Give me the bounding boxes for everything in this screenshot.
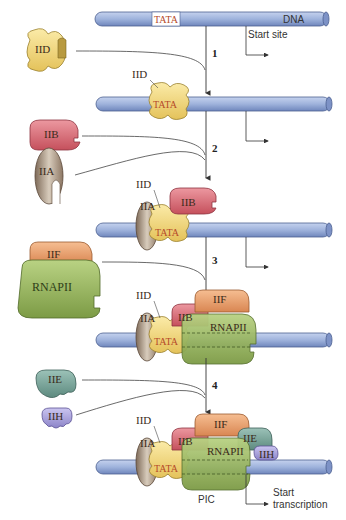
dna-row-4: IIA TATA IIB IIF RNAPII IID [96,289,332,364]
iih-label: IIH [48,410,63,422]
svg-text:RNAPII: RNAPII [207,445,244,457]
dna-label: DNA [283,14,304,25]
free-iie: IIE [36,370,76,398]
svg-text:IIB: IIB [178,435,193,447]
iif-rnapii-path [102,262,205,280]
free-iib: IIB [30,120,80,150]
svg-text:IIF: IIF [214,418,227,430]
svg-text:IID: IID [136,414,151,426]
svg-text:TATA: TATA [154,336,179,347]
dna-row-2: TATA IID [96,68,332,141]
step-3-label: 3 [212,254,218,266]
svg-text:TATA: TATA [155,227,180,238]
free-iih: IIH [42,408,72,428]
step-4-label: 4 [212,379,218,391]
svg-text:TATA: TATA [154,463,179,474]
iib-label: IIB [44,128,59,140]
svg-text:IIE: IIE [243,432,257,444]
free-iid: IID [27,29,66,72]
start-label: Start [273,487,294,498]
svg-text:IIA: IIA [140,200,155,212]
svg-text:IID: IID [136,178,151,190]
iid-label: IID [35,43,50,55]
pic-complex: IIA TATA IIB IIF IIE IIH RNAPII IID PIC … [96,414,332,510]
step-1-label: 1 [212,47,218,59]
svg-text:IID: IID [136,289,151,301]
svg-text:IIH: IIH [259,448,274,460]
svg-text:IIB: IIB [181,196,196,208]
svg-text:RNAPII: RNAPII [210,321,247,333]
iih-path [76,391,205,415]
iie-label: IIE [48,373,62,385]
free-iia: IIA [35,148,63,204]
svg-text:IIF: IIF [213,293,226,305]
rnapii-label: RNAPII [32,280,72,294]
pic-label: PIC [198,494,215,505]
tata-label: TATA [154,14,179,25]
iif-label: IIF [47,248,60,260]
svg-text:IIB: IIB [178,311,193,323]
svg-text:TATA: TATA [153,99,178,110]
svg-text:IIA: IIA [140,312,155,324]
start-site-label: Start site [248,29,288,40]
iia-label: IIA [39,165,54,177]
transcription-label: transcription [273,499,327,510]
iid-callout: IID [132,68,147,80]
free-iif-rnapii: IIF RNAPII [18,242,100,318]
pic-assembly-diagram: TATA DNA Start site IID 1 TATA IID IIB I… [0,0,346,520]
iie-path [82,380,205,395]
iia-path [75,152,205,175]
step-2-label: 2 [212,142,218,154]
svg-text:IIA: IIA [140,437,155,449]
